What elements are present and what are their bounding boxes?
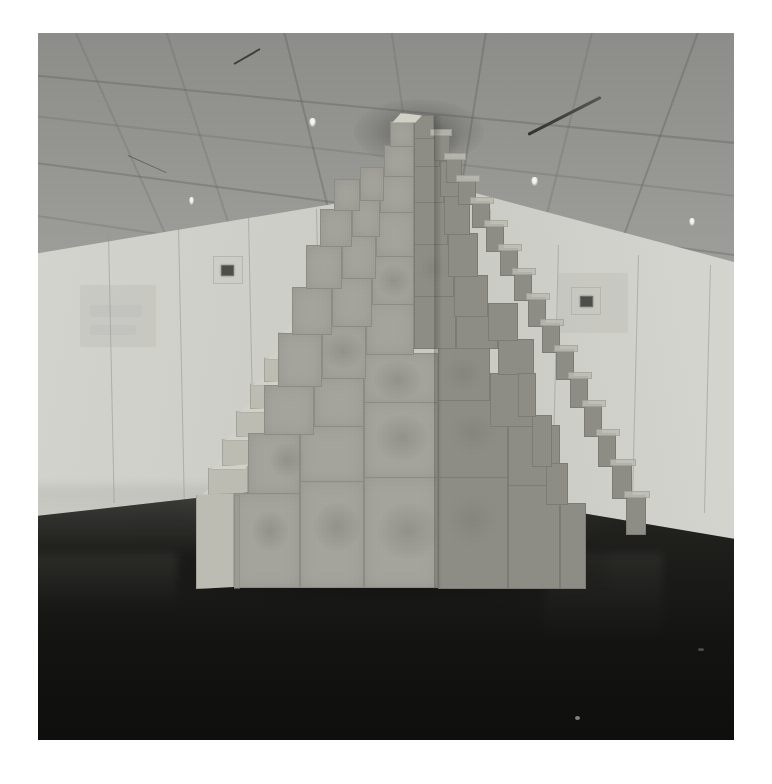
wall-outlet-left[interactable] — [221, 265, 234, 276]
ceiling-spotlight-icon — [189, 197, 194, 205]
wall-mark — [90, 305, 142, 317]
room-corner — [490, 209, 491, 249]
floor-reflection — [38, 553, 178, 613]
floor-speck — [698, 648, 704, 651]
photograph — [38, 33, 734, 740]
wall-outlet-right[interactable] — [580, 296, 593, 307]
ceiling-spotlight-icon — [689, 218, 695, 226]
photograph-page: Symmetrical ziggurat of stacked rectangu… — [0, 0, 772, 784]
floor-reflection — [543, 553, 663, 643]
ceiling-spotlight-icon — [531, 177, 538, 186]
floor-speck — [575, 716, 580, 720]
ceiling-spotlight-icon — [309, 118, 316, 127]
floor-reflection — [38, 485, 218, 555]
wall-mark — [90, 325, 136, 335]
